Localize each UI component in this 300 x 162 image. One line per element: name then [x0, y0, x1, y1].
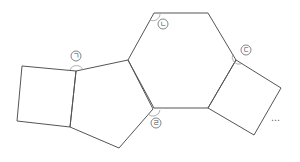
label-text: ㄹ: [153, 119, 159, 127]
polygon-chain-diagram: ㄱ ㄴ ㄷ ㄹ ⋯: [0, 0, 300, 162]
angle-label-c: ㄷ: [241, 45, 251, 55]
angle-label-d: ㄹ: [151, 118, 161, 128]
pentagon: [70, 60, 153, 148]
angle-label-b: ㄴ: [158, 19, 168, 29]
continuation-ellipsis: ⋯: [271, 115, 280, 125]
label-text: ㄴ: [160, 20, 166, 28]
hexagon: [128, 13, 236, 108]
left-square: [17, 66, 76, 127]
angle-label-a: ㄱ: [71, 51, 81, 61]
angle-arc-a: [70, 66, 83, 70]
label-text: ㄱ: [73, 52, 79, 60]
diagram-svg: ㄱ ㄴ ㄷ ㄹ ⋯: [0, 0, 300, 162]
label-text: ㄷ: [243, 46, 249, 54]
